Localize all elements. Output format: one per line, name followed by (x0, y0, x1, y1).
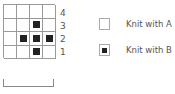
row-number-4: 4 (60, 8, 66, 18)
row-number-1: 1 (60, 47, 66, 57)
legend-item-b: Knit with B (99, 44, 110, 56)
contrast-stitch-icon (33, 48, 40, 55)
empty-square-icon (99, 18, 110, 30)
chart-cell (30, 19, 43, 33)
chart-cell (4, 32, 17, 46)
chart-cell (43, 46, 56, 60)
contrast-stitch-icon (46, 35, 53, 42)
chart-cell (30, 46, 43, 60)
chart-cell (30, 5, 43, 19)
row-number-3: 3 (60, 21, 66, 31)
chart-cell (17, 19, 30, 33)
filled-square-icon (99, 44, 110, 56)
chart-cell (43, 5, 56, 19)
chart-cell (17, 46, 30, 60)
chart-cell (4, 19, 17, 33)
legend-item-a: Knit with A (99, 18, 110, 30)
legend-label-a: Knit with A (126, 19, 172, 29)
contrast-stitch-icon (20, 35, 27, 42)
contrast-stitch-icon (33, 35, 40, 42)
chart-cell (30, 32, 43, 46)
repeat-bracket (3, 79, 54, 87)
chart-cell (4, 5, 17, 19)
chart-cell (17, 5, 30, 19)
chart-cell (17, 32, 30, 46)
chart-cell (4, 46, 17, 60)
chart-cell (43, 32, 56, 46)
legend-label-b: Knit with B (126, 45, 172, 55)
row-number-2: 2 (60, 34, 66, 44)
contrast-stitch-icon (33, 21, 40, 28)
knitting-chart-grid (3, 4, 55, 58)
chart-cell (43, 19, 56, 33)
